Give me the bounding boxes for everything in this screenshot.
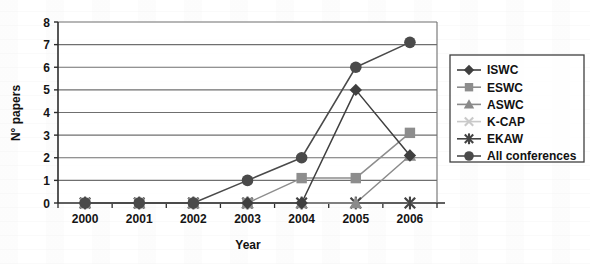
data-point-marker xyxy=(464,151,474,161)
y-tick-label: 4 xyxy=(43,106,50,120)
data-point-marker xyxy=(242,175,254,187)
legend-label: ASWC xyxy=(487,98,524,112)
line-chart: 012345678 2000200120022003200420052006 N… xyxy=(0,0,590,264)
x-tick-label: 2003 xyxy=(234,212,261,226)
legend-label: EKAW xyxy=(487,132,524,146)
y-tick-label: 1 xyxy=(43,174,50,188)
legend-label: K-CAP xyxy=(487,115,525,129)
x-tick-label: 2000 xyxy=(72,212,99,226)
x-tick-label: 2001 xyxy=(126,212,153,226)
legend: ISWCESWCASWCK-CAPEKAWAll conferences xyxy=(450,55,584,163)
data-point-marker xyxy=(133,197,145,209)
legend-label: ESWC xyxy=(487,81,523,95)
y-tick-label: 7 xyxy=(43,38,50,52)
y-tick-label: 8 xyxy=(43,16,50,30)
data-point-marker xyxy=(79,197,91,209)
data-point-marker xyxy=(465,83,473,91)
y-tick-label: 3 xyxy=(43,129,50,143)
y-axis-tick-labels: 012345678 xyxy=(43,16,50,211)
legend-label: All conferences xyxy=(487,149,577,163)
y-tick-label: 2 xyxy=(43,151,50,165)
chart-figure: 012345678 2000200120022003200420052006 N… xyxy=(0,0,590,264)
data-point-marker xyxy=(188,197,200,209)
data-point-marker xyxy=(351,173,361,183)
y-tick-label: 5 xyxy=(43,83,50,97)
y-tick-label: 6 xyxy=(43,61,50,75)
data-point-marker xyxy=(404,37,416,49)
y-tick-label: 0 xyxy=(43,197,50,211)
data-point-marker xyxy=(350,61,362,73)
x-tick-label: 2006 xyxy=(397,212,424,226)
y-axis-title: N° papers xyxy=(9,85,23,141)
x-tick-label: 2005 xyxy=(342,212,369,226)
data-point-marker xyxy=(296,173,306,183)
data-point-marker xyxy=(296,152,308,164)
legend-label: ISWC xyxy=(487,63,519,77)
x-tick-label: 2002 xyxy=(180,212,207,226)
data-point-marker xyxy=(405,128,415,138)
x-axis-title: Year xyxy=(235,238,261,252)
x-tick-label: 2004 xyxy=(288,212,315,226)
